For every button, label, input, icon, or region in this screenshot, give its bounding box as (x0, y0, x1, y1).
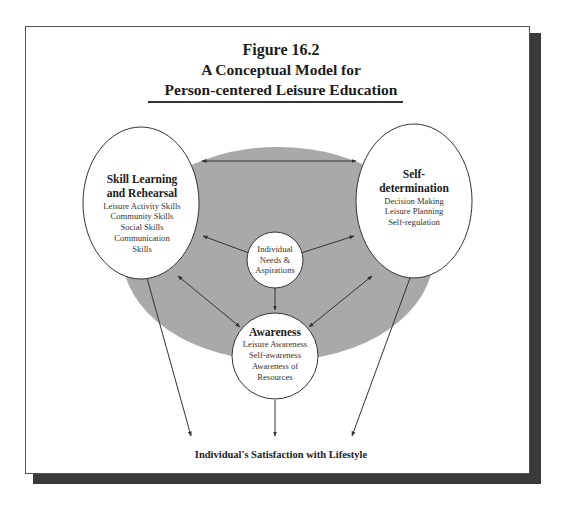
self-determination-label: Self- determination Decision Making Leis… (362, 167, 466, 228)
center-line: Needs & (247, 255, 303, 266)
awareness-item: Awareness of (233, 361, 317, 372)
skill-item: Community Skills (86, 211, 198, 222)
self-determination-title-1: Self- (362, 167, 466, 181)
outcome-label: Individual's Satisfaction with Lifestyle (0, 449, 562, 460)
skill-learning-label: Skill Learning and Rehearsal Leisure Act… (86, 172, 198, 254)
self-determination-item: Decision Making (362, 196, 466, 207)
skill-item: Skills (86, 244, 198, 255)
center-needs-label: Individual Needs & Aspirations (247, 244, 303, 276)
self-determination-item: Leisure Planning (362, 206, 466, 217)
skill-item: Social Skills (86, 222, 198, 233)
skill-item: Communication (86, 233, 198, 244)
awareness-title: Awareness (233, 325, 317, 339)
self-determination-title-2: determination (362, 181, 466, 195)
awareness-item: Leisure Awareness (233, 339, 317, 350)
awareness-item: Resources (233, 372, 317, 383)
awareness-label: Awareness Leisure Awareness Self-awarene… (233, 325, 317, 382)
center-line: Individual (247, 244, 303, 255)
skill-item: Leisure Activity Skills (86, 201, 198, 212)
awareness-item: Self-awareness (233, 350, 317, 361)
center-line: Aspirations (247, 265, 303, 276)
skill-learning-title-2: and Rehearsal (86, 186, 198, 200)
self-determination-item: Self-regulation (362, 217, 466, 228)
skill-learning-title-1: Skill Learning (86, 172, 198, 186)
